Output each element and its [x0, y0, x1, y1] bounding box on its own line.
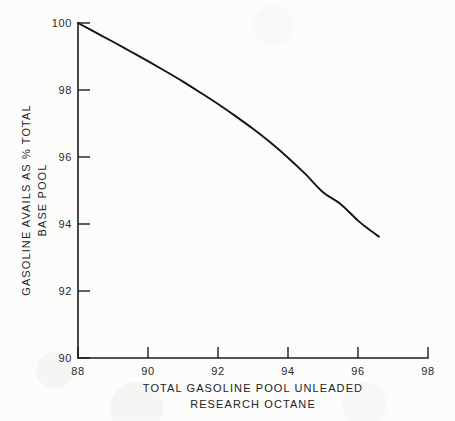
y-axis-ticks [78, 23, 90, 358]
x-axis-title-line1: TOTAL GASOLINE POOL UNLEADED [143, 382, 363, 394]
x-tick-label-90: 90 [141, 365, 154, 377]
y-tick-label-100: 100 [52, 17, 72, 29]
y-tick-label-92: 92 [59, 285, 72, 297]
x-axis-title-line2: RESEARCH OCTANE [190, 398, 316, 410]
y-axis-title-line1: GASOLINE AVAILS AS % TOTAL [20, 104, 32, 295]
y-tick-label-94: 94 [59, 218, 72, 230]
y-tick-label-90: 90 [59, 352, 72, 364]
figure-canvas: 100 98 96 94 92 90 88 90 92 94 96 98 TOT… [0, 0, 455, 421]
x-tick-label-98: 98 [421, 365, 434, 377]
x-tick-label-92: 92 [211, 365, 224, 377]
y-tick-label-98: 98 [59, 84, 72, 96]
x-tick-label-88: 88 [71, 365, 84, 377]
data-series-line [78, 23, 379, 237]
x-tick-label-96: 96 [351, 365, 364, 377]
x-axis-ticks [78, 347, 428, 358]
y-axis-title-line2: BASE POOL [36, 164, 48, 237]
x-tick-label-94: 94 [281, 365, 294, 377]
y-tick-label-96: 96 [59, 151, 72, 163]
line-chart: 100 98 96 94 92 90 88 90 92 94 96 98 TOT… [0, 0, 455, 421]
